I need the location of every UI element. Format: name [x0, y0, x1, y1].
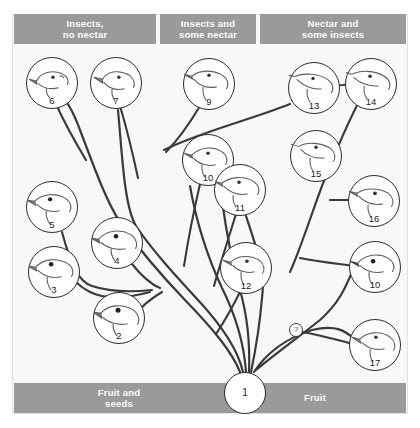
category-label: Insects, no nectar [63, 18, 108, 41]
root-node-label: 1 [225, 373, 265, 413]
taxon-node-2[interactable]: 2 [93, 292, 145, 344]
category-label: Insects and some nectar [179, 18, 237, 41]
category-bar-insects-some-nectar: Insects and some nectar [160, 14, 256, 44]
taxon-node-3[interactable]: 3 [28, 246, 80, 298]
taxon-node-9[interactable]: 13 [288, 62, 340, 114]
taxon-number: 14 [346, 96, 396, 107]
taxon-number: 12 [221, 280, 271, 291]
taxon-node-17[interactable]: 17 [349, 319, 401, 371]
taxon-number: 17 [350, 357, 400, 368]
taxon-number: 4 [92, 255, 142, 266]
category-bar-nectar-some-insects: Nectar and some insects [260, 14, 406, 44]
taxon-node-5[interactable]: 5 [26, 181, 78, 233]
taxon-node-12[interactable]: 12 [220, 242, 272, 294]
taxon-node-7[interactable]: 7 [90, 57, 142, 109]
taxon-node-8[interactable]: 9 [183, 58, 235, 110]
taxon-node-11[interactable]: 11 [214, 164, 266, 216]
taxon-number: 7 [91, 95, 141, 106]
root-node-1[interactable]: 1 [224, 372, 266, 414]
taxon-node-13[interactable]: 14 [345, 58, 397, 110]
category-label: Fruit [304, 392, 326, 404]
taxon-node-4[interactable]: 4 [91, 217, 143, 269]
taxon-node-16[interactable]: 10 [349, 241, 401, 293]
taxon-number: 2 [94, 330, 144, 341]
category-bar-fruit-and-seeds: Fruit and seeds [14, 383, 224, 413]
taxon-number: 5 [27, 219, 77, 230]
category-label: Nectar and some insects [302, 18, 365, 41]
unknown-ancestor-label: ? [290, 324, 302, 336]
category-label: Fruit and seeds [98, 387, 140, 410]
taxon-number: 16 [349, 213, 399, 224]
taxon-number: 3 [29, 284, 79, 295]
taxon-number: 13 [289, 100, 339, 111]
taxon-number: 9 [184, 96, 234, 107]
taxon-number: 11 [215, 202, 265, 213]
figure-canvas: Insects, no nectar Insects and some nect… [0, 0, 420, 428]
taxon-node-6[interactable]: 6 [26, 57, 78, 109]
taxon-number: 10 [350, 279, 400, 290]
category-bar-insects-no-nectar: Insects, no nectar [14, 14, 156, 44]
taxon-node-14[interactable]: 15 [290, 130, 342, 182]
taxon-number: 15 [291, 168, 341, 179]
taxon-number: 6 [27, 95, 77, 106]
taxon-node-15[interactable]: 16 [348, 175, 400, 227]
unknown-ancestor-node[interactable]: ? [289, 323, 303, 337]
